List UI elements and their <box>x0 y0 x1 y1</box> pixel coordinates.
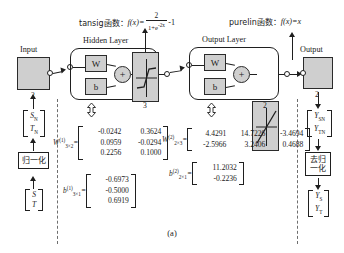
tansig-denominator-exponent: -2x <box>158 22 165 28</box>
raw-input-row-0: S <box>32 190 36 200</box>
matrix-row: 0.22560.1000 <box>85 148 161 159</box>
denormalize-box[interactable]: 去归 一化 <box>305 152 331 176</box>
w2-r0-c0: 4.4291 <box>194 129 226 140</box>
weight-matrix-1-label: W(1)3×2= <box>53 137 78 149</box>
hidden-layer-neuron-count: 3 <box>143 101 147 110</box>
matrix-row: 0.6919 <box>93 196 129 207</box>
tansig-note: tansig函数： f(x)= 2 1+e-2x -1 <box>79 12 175 32</box>
normalized-input-vector: SN TN <box>23 110 45 141</box>
bias-vector-1: b(1)3×1= -0.6973 -0.5000 0.6919 <box>63 174 136 208</box>
w1-r0-c1: 0.3624 <box>121 127 161 138</box>
w2-r0-c2: -3.4694 <box>265 129 303 140</box>
matrix-row: 4.429114.7226-3.4694 <box>194 129 303 140</box>
purelin-pointer-line <box>292 34 293 60</box>
output-layer-weight-label: W <box>211 58 220 68</box>
input-block <box>17 57 50 90</box>
hidden-layer-activation-box <box>132 52 159 102</box>
bracket-right <box>239 162 244 185</box>
left-up-arrow-head-2 <box>30 138 36 143</box>
hidden-layer-double-arrow <box>87 103 96 121</box>
tansig-fraction: 2 1+e-2x <box>146 12 167 32</box>
raw-input-vector: S T <box>25 189 43 215</box>
final-output-vector: YS YT <box>308 190 329 221</box>
left-dashed-divider <box>57 99 58 244</box>
output-block-input-node <box>300 70 306 76</box>
w2-r1-c0: -2.5966 <box>194 140 226 151</box>
matrix-row: -0.02420.3624 <box>85 127 161 138</box>
b1-r2: 0.6919 <box>93 196 129 207</box>
right-down-arrow-head-1 <box>315 104 321 109</box>
tansig-note-tail: -1 <box>168 18 175 27</box>
figure-canvas: tansig函数： f(x)= 2 1+e-2x -1 purelin函数： f… <box>0 0 344 253</box>
bracket-right <box>324 190 329 217</box>
hidden-layer-bias-box: b <box>85 78 107 95</box>
output-layer-double-arrow <box>207 103 216 121</box>
output-layer-title: Output Layer <box>202 36 246 44</box>
output-layer-bias-box: b <box>204 78 226 95</box>
w1-r1-c0: 0.0959 <box>85 138 121 149</box>
left-up-arrow-head-3 <box>30 176 36 181</box>
bracket-right <box>38 189 43 211</box>
tansig-curve-icon <box>133 53 159 102</box>
tansig-numerator: 2 <box>153 12 161 20</box>
weight-matrix-2: W(2)2×3= 4.429114.7226-3.4694 -2.59663.2… <box>162 128 310 151</box>
hidden-layer-bias-label: b <box>94 82 99 92</box>
hidden-layer-weight-label: W <box>92 59 101 69</box>
weight-matrix-2-label: W(2)2×3= <box>162 134 187 146</box>
tansig-denominator: 1+e-2x <box>146 21 167 32</box>
matrix-row: 0.0959-0.0294 <box>85 138 161 149</box>
w2-r1-c2: 0.4688 <box>265 140 303 151</box>
output-layer-neuron-count: 2 <box>263 101 267 110</box>
bracket-right <box>305 128 310 151</box>
purelin-pointer-arrow <box>289 32 295 37</box>
figure-caption: (a) <box>0 228 344 238</box>
bracket-right <box>327 110 332 137</box>
purelin-note-prefix: purelin函数： <box>229 16 281 27</box>
tansig-note-prefix: tansig函数： <box>79 17 128 28</box>
left-up-arrow-head-1 <box>30 94 36 99</box>
hidden-layer-sum-node: + <box>114 66 131 83</box>
matrix-row: -2.59663.24060.4688 <box>194 140 303 151</box>
w1-r2-c0: 0.2256 <box>85 148 121 159</box>
input-to-hidden-arrow <box>60 66 66 73</box>
bracket-right <box>131 174 136 208</box>
hidden-layer-weight-box: W <box>85 55 107 72</box>
hidden-layer-sum-symbol: + <box>120 70 126 80</box>
matrix-row: -0.5000 <box>93 186 129 197</box>
tansig-note-fn: f(x)= <box>128 18 145 27</box>
output-block-label: Output <box>300 46 323 54</box>
normalized-output-vector: YSN YTN <box>307 110 332 141</box>
purelin-note: purelin函数： f(x)=x <box>229 16 301 27</box>
matrix-row: 11.2032 <box>199 163 237 174</box>
bracket-right <box>40 110 45 137</box>
weight-matrix-1: W(1)3×2= -0.02420.3624 0.0959-0.0294 0.2… <box>53 126 168 160</box>
b1-r0: -0.6973 <box>93 175 129 186</box>
output-layer-weight-box: W <box>204 54 226 71</box>
output-sum-to-activation-wire <box>250 74 257 75</box>
output-block <box>303 57 333 89</box>
output-layer-bias-label: b <box>213 82 218 92</box>
input-block-label: Input <box>20 46 37 54</box>
w2-r0-c1: 14.7226 <box>226 129 265 140</box>
bias-vector-2-label: b(2)2×1= <box>169 168 192 180</box>
bias-vector-2: b(2)2×1= 11.2032 -0.2236 <box>169 162 244 185</box>
normalize-box[interactable]: 归一化 <box>18 152 49 169</box>
purelin-note-fn: f(x)=x <box>281 17 302 26</box>
denormalize-box-line-2: 一化 <box>310 164 326 173</box>
matrix-row: -0.2236 <box>199 174 237 185</box>
bias-vector-1-label: b(1)3×1= <box>63 185 86 197</box>
raw-input-row-1: T <box>32 200 36 210</box>
right-dashed-divider <box>297 99 298 244</box>
right-down-arrow-head-2 <box>315 146 321 151</box>
matrix-row: -0.6973 <box>93 175 129 186</box>
output-layer-sum-symbol: + <box>239 70 245 80</box>
w1-r1-c1: -0.0294 <box>121 138 161 149</box>
b1-r1: -0.5000 <box>93 186 129 197</box>
b2-r0: 11.2032 <box>199 163 237 174</box>
output-layer-sum-node: + <box>233 66 250 83</box>
w2-r1-c1: 3.2406 <box>226 140 265 151</box>
tansig-pointer-arrow <box>142 28 148 33</box>
w1-r0-c0: -0.0242 <box>85 127 121 138</box>
denormalize-box-line-1: 去归 <box>310 155 326 164</box>
normalize-box-label: 归一化 <box>22 156 46 165</box>
